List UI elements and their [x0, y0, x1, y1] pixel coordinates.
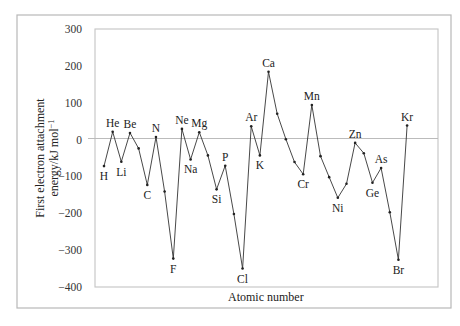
data-point-be — [129, 132, 132, 135]
electron-affinity-chart: 3002001000−100−200−300−400 First electro… — [0, 0, 460, 326]
y-axis-title-line1: First electron attachment — [33, 98, 47, 218]
data-point-n — [155, 136, 158, 139]
data-point-si — [215, 188, 218, 191]
element-label-li: Li — [116, 166, 126, 178]
y-tick-label: −100 — [58, 170, 82, 182]
element-label-ca: Ca — [262, 57, 275, 69]
y-tick-label: −300 — [58, 244, 82, 256]
y-tick-label: 300 — [65, 23, 83, 35]
data-point-fe — [319, 155, 322, 158]
element-label-as: As — [375, 153, 388, 165]
element-labels: HHeLiBeCNFNeNaMgSiPClArKCaCrMnNiZnGeAsBr… — [100, 57, 413, 285]
data-point-b — [137, 147, 140, 150]
element-label-ni: Ni — [332, 202, 344, 214]
data-point-sc — [276, 112, 279, 115]
y-tick-label: 0 — [76, 134, 82, 146]
data-point-na — [189, 158, 192, 161]
data-point-ga — [363, 152, 366, 155]
y-tick-label: −400 — [58, 281, 82, 293]
data-point-kr — [406, 124, 409, 127]
data-point-se — [388, 211, 391, 214]
data-point-ge — [371, 181, 374, 184]
element-label-zn: Zn — [349, 128, 362, 140]
x-axis-title: Atomic number — [228, 290, 304, 304]
data-point-k — [259, 154, 262, 157]
element-label-na: Na — [184, 163, 197, 175]
data-point-ni — [337, 197, 340, 200]
element-label-p: P — [222, 151, 228, 163]
data-point-s — [233, 213, 236, 216]
element-label-n: N — [152, 122, 161, 134]
data-point-al — [207, 154, 210, 157]
data-point-v — [293, 161, 296, 164]
data-point-br — [397, 258, 400, 261]
element-label-k: K — [256, 159, 265, 171]
y-axis-title-line2: energy/kJ mol−1 — [46, 119, 61, 196]
element-label-ge: Ge — [366, 187, 379, 199]
data-point-h — [103, 165, 106, 168]
data-point-ca — [267, 70, 270, 73]
element-label-br: Br — [393, 264, 405, 276]
data-point-p — [224, 164, 227, 167]
data-point-zn — [354, 142, 357, 145]
data-point-cl — [241, 267, 244, 270]
data-point-mn — [311, 104, 314, 107]
data-point-ne — [181, 128, 184, 131]
data-point-li — [120, 160, 123, 163]
element-label-h: H — [100, 170, 108, 182]
data-point-c — [146, 184, 149, 187]
element-label-kr: Kr — [401, 111, 413, 123]
data-point-cu — [345, 183, 348, 186]
element-label-c: C — [143, 189, 151, 201]
element-label-si: Si — [212, 193, 222, 205]
y-tick-label: −200 — [58, 207, 82, 219]
element-label-he: He — [106, 117, 119, 129]
data-point-o — [163, 190, 166, 193]
data-point-co — [328, 176, 331, 179]
element-label-cl: Cl — [237, 273, 248, 285]
element-label-cr: Cr — [297, 178, 309, 190]
data-point-ti — [285, 138, 288, 141]
data-point-he — [111, 131, 114, 134]
y-tick-label: 200 — [65, 60, 83, 72]
y-axis-title: First electron attachment energy/kJ mol−… — [33, 98, 61, 218]
data-point-as — [380, 167, 383, 170]
element-label-mn: Mn — [304, 90, 320, 102]
element-label-be: Be — [124, 118, 137, 130]
element-label-ar: Ar — [245, 111, 257, 123]
element-label-f: F — [170, 263, 176, 275]
data-point-cr — [302, 173, 305, 176]
data-point-ar — [250, 125, 253, 128]
y-tick-label: 100 — [65, 97, 83, 109]
data-point-f — [172, 257, 175, 260]
y-axis-tick-labels: 3002001000−100−200−300−400 — [58, 23, 82, 293]
element-label-mg: Mg — [191, 117, 207, 130]
data-point-mg — [198, 131, 201, 134]
element-label-ne: Ne — [175, 114, 188, 126]
